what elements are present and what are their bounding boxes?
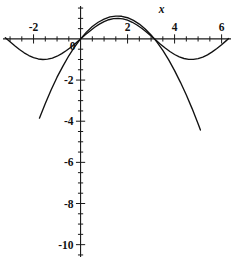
origin-tick-label: 0 bbox=[70, 40, 76, 52]
y-tick-label: -8 bbox=[64, 198, 74, 210]
x-tick-label: 6 bbox=[219, 21, 225, 33]
x-tick-label: 4 bbox=[172, 21, 178, 33]
math-plot-svg: -2246 -2-4-6-8-10 0 x bbox=[0, 0, 234, 263]
curves-group bbox=[5, 16, 228, 130]
y-axis-tick-labels: -2-4-6-8-10 bbox=[58, 74, 74, 251]
parabola-curve bbox=[39, 16, 200, 130]
y-tick-label: -4 bbox=[64, 115, 74, 127]
x-tick-label: -2 bbox=[29, 21, 39, 33]
y-tick-label: -2 bbox=[64, 74, 74, 86]
axes-group bbox=[3, 6, 231, 257]
x-axis-tick-labels: -2246 bbox=[29, 21, 225, 33]
x-tick-label: 2 bbox=[125, 21, 131, 33]
y-tick-label: -10 bbox=[58, 239, 74, 251]
x-axis-name-label: x bbox=[158, 3, 165, 15]
plot-figure: -2246 -2-4-6-8-10 0 x bbox=[0, 0, 234, 263]
y-tick-label: -6 bbox=[64, 156, 74, 168]
